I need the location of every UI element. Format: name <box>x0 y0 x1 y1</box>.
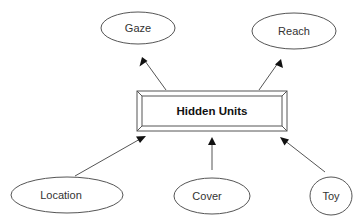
edge-hidden-to-reach <box>259 59 283 90</box>
output-nodes: Gaze Reach <box>101 12 336 49</box>
hidden-units-label: Hidden Units <box>177 105 248 117</box>
input-nodes: Location Cover Toy <box>11 177 352 215</box>
arrowhead-icon <box>136 136 146 143</box>
network-diagram: Hidden Units Gaze Reach Location Cover T… <box>0 0 363 224</box>
edge-location-to-hidden <box>75 136 146 176</box>
arrowhead-icon <box>208 137 216 145</box>
node-location: Location <box>11 177 123 213</box>
arrowhead-icon <box>280 137 289 146</box>
reach-label: Reach <box>278 25 310 37</box>
cover-label: Cover <box>192 190 222 202</box>
arrowhead-icon <box>140 57 148 67</box>
edge-toy-to-hidden <box>280 137 325 172</box>
arrowhead-icon <box>275 59 283 68</box>
node-gaze: Gaze <box>101 12 175 44</box>
node-cover: Cover <box>174 178 250 214</box>
edge-cover-to-hidden <box>208 137 216 170</box>
edge-hidden-to-gaze <box>140 57 167 90</box>
toy-label: Toy <box>322 190 340 202</box>
node-reach: Reach <box>252 13 336 49</box>
gaze-label: Gaze <box>125 22 151 34</box>
location-label: Location <box>40 189 82 201</box>
hidden-units-node: Hidden Units <box>137 91 287 131</box>
node-toy: Toy <box>310 177 352 215</box>
